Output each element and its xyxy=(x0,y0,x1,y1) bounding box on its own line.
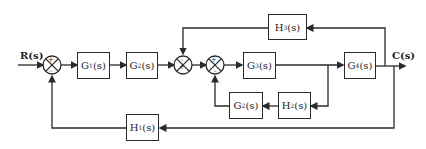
input-label-r-s: R(s) xyxy=(20,50,43,61)
block-g2-feedback: G2(s) xyxy=(229,92,263,119)
block-h2: H2(s) xyxy=(278,92,311,119)
block-g2-forward: G2(s) xyxy=(126,52,158,79)
block-diagram: R(s) C(s) + - + - + - G1(s) G2(s) G3(s) … xyxy=(0,0,426,149)
s3-plus-sign: + xyxy=(211,57,217,64)
block-h3: H3(s) xyxy=(268,14,307,40)
s1-plus-sign: + xyxy=(48,57,54,64)
block-g3: G3(s) xyxy=(243,52,276,79)
output-label-c-s: C(s) xyxy=(392,50,415,61)
s3-minus-sign: - xyxy=(214,68,216,75)
s1-minus-sign: - xyxy=(50,68,52,75)
block-h1: H1(s) xyxy=(126,114,159,141)
s2-minus-sign: - xyxy=(181,57,183,64)
s2-plus-sign: + xyxy=(179,64,185,71)
block-g1: G1(s) xyxy=(77,52,110,79)
block-g4: G4(s) xyxy=(344,52,376,79)
